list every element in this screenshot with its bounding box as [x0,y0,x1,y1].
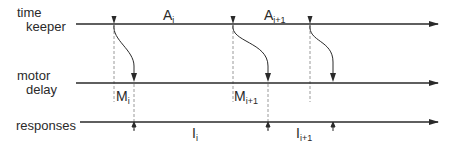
label-I-i+1: Ii+1 [296,125,312,143]
arrow-up-icon [331,122,335,127]
timing-diagram: time keeper motor delay responses [0,0,453,153]
label-A-i+1: Ai+1 [264,7,286,25]
arrow-down-icon [131,73,137,82]
response-markers [132,122,335,131]
pulse-arrow-icon [112,16,117,24]
arrow-up-icon [132,122,136,127]
arrow-down-icon [330,73,336,82]
row-label-line: keeper [26,19,66,34]
arrow-up-icon [266,122,270,127]
label-M-i: Mi [116,88,130,106]
row-label-line: time [17,5,42,20]
row-label-line: motor [17,68,51,83]
motor-delay-curves [114,25,333,74]
pulse-arrow-icon [231,16,236,24]
row-label-motor-delay: motor delay [17,68,58,97]
delay-curve [233,25,268,74]
row-label-responses: responses [16,118,76,133]
timelines [76,24,438,122]
row-label-timekeeper: time keeper [17,5,66,34]
label-I-i: Ii [192,125,198,143]
row-label-line: delay [26,82,58,97]
delay-curve [114,25,134,74]
dashed-guides [114,26,310,130]
arrow-down-icon [265,73,271,82]
label-A-i: Ai [163,7,174,25]
delay-curve [310,25,333,74]
row-label-line: responses [16,118,76,133]
pulse-arrow-icon [308,16,313,24]
label-M-i+1: Mi+1 [234,88,258,106]
